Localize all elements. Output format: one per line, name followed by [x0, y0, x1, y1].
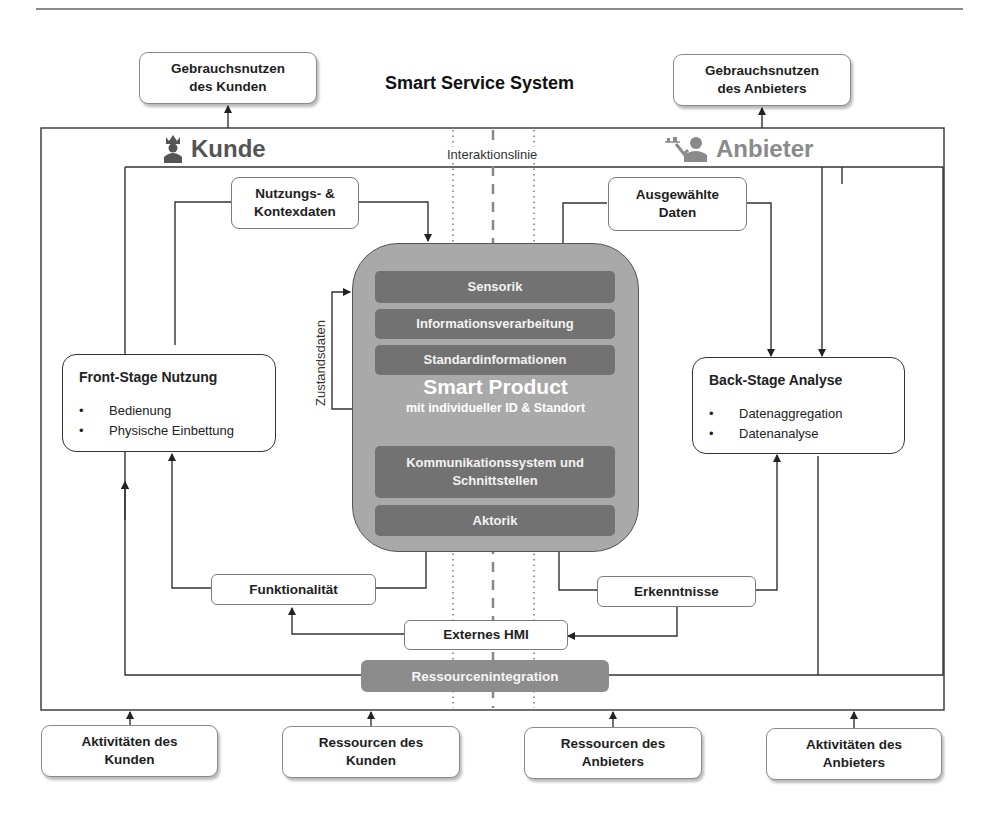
actor-provider-label: Anbieter — [716, 135, 813, 163]
state-data-label: Zustandsdaten — [313, 320, 328, 406]
smart-product-box: Sensorik Informationsverarbeitung Standa… — [352, 243, 639, 552]
layer-sensorik: Sensorik — [375, 271, 615, 303]
customer-resources-box: Ressourcen des Kunden — [282, 726, 460, 778]
selected-data-box: Ausgewählte Daten — [608, 177, 747, 231]
waiter-icon — [664, 136, 708, 162]
insights-label: Erkenntnisse — [634, 583, 719, 601]
insights-box: Erkenntnisse — [597, 576, 756, 607]
front-stage-box: Front-Stage Nutzung •Bedienung •Physisch… — [62, 354, 276, 452]
actor-customer: Kunde — [163, 135, 266, 163]
functionality-label: Funktionalität — [249, 581, 338, 599]
provider-value-label: Gebrauchsnutzen des Anbieters — [697, 62, 827, 98]
king-icon — [163, 135, 183, 163]
customer-value-box: Gebrauchsnutzen des Kunden — [139, 52, 317, 104]
provider-resources-label: Ressourcen des Anbieters — [553, 735, 673, 771]
interaction-line-label: Interaktionslinie — [445, 147, 539, 162]
functionality-box: Funktionalität — [211, 574, 376, 605]
external-hmi-label: Externes HMI — [443, 626, 529, 644]
smart-product-title: Smart Product — [353, 375, 638, 399]
provider-activities-label: Aktivitäten des Anbieters — [794, 736, 914, 772]
provider-activities-box: Aktivitäten des Anbieters — [766, 728, 942, 780]
back-stage-list: •Datenaggregation •Datenanalyse — [709, 404, 888, 444]
list-item: •Physische Einbettung — [79, 421, 259, 441]
actor-customer-label: Kunde — [191, 135, 266, 163]
provider-resources-box: Ressourcen des Anbieters — [524, 727, 702, 779]
selected-data-label: Ausgewählte Daten — [628, 186, 728, 222]
customer-resources-label: Ressourcen des Kunden — [311, 734, 431, 770]
back-stage-box: Back-Stage Analyse •Datenaggregation •Da… — [692, 357, 905, 454]
layer-aktorik: Aktorik — [375, 505, 615, 536]
diagram-title: Smart Service System — [385, 73, 574, 94]
usage-context-data-label: Nutzungs- & Kontexdaten — [245, 185, 345, 221]
resource-integration-box: Ressourcenintegration — [361, 660, 609, 692]
front-stage-title: Front-Stage Nutzung — [79, 369, 259, 385]
list-item: •Bedienung — [79, 401, 259, 421]
page-header-rule — [36, 8, 963, 10]
layer-standardinformationen: Standardinformationen — [375, 345, 615, 375]
back-stage-title: Back-Stage Analyse — [709, 372, 888, 388]
customer-activities-box: Aktivitäten des Kunden — [41, 725, 218, 777]
usage-context-data-box: Nutzungs- & Kontexdaten — [231, 177, 359, 229]
layer-informationsverarbeitung: Informationsverarbeitung — [375, 309, 615, 339]
actor-provider: Anbieter — [664, 135, 813, 163]
provider-value-box: Gebrauchsnutzen des Anbieters — [673, 54, 851, 106]
external-hmi-box: Externes HMI — [404, 620, 568, 650]
customer-activities-label: Aktivitäten des Kunden — [70, 733, 190, 769]
layer-kommunikationssystem: Kommunikationssystem und Schnittstellen — [375, 446, 615, 498]
front-stage-list: •Bedienung •Physische Einbettung — [79, 401, 259, 441]
smart-product-subtitle: mit individueller ID & Standort — [353, 401, 638, 415]
list-item: •Datenaggregation — [709, 404, 888, 424]
customer-value-label: Gebrauchsnutzen des Kunden — [163, 60, 293, 96]
list-item: •Datenanalyse — [709, 424, 888, 444]
